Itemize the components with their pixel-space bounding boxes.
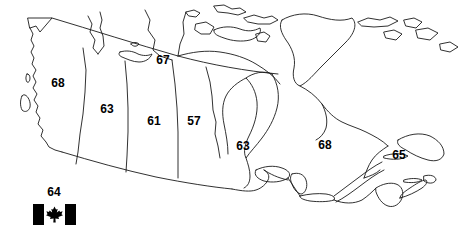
saskatchewan-manitoba-boundary: [172, 60, 178, 178]
yukon-nwt-boundary: [88, 16, 98, 54]
region-label-atlantic: 65: [392, 148, 406, 162]
alaska-panhandle-outline: [28, 18, 52, 32]
labrador-coast-outline: [300, 86, 388, 146]
usa-border-49th-parallel: [62, 152, 232, 189]
great-slave-lake-outline: [119, 51, 152, 62]
baffin-island-outline: [280, 14, 355, 86]
lake-huron-outline: [291, 173, 307, 194]
arctic-island-b: [214, 5, 246, 15]
ungava-bay-outline: [316, 104, 327, 140]
pacific-coast-outline: [30, 28, 62, 152]
coastal-island-outline: [26, 74, 30, 82]
region-label-british-columbia: 68: [51, 76, 65, 90]
banks-island-outline: [195, 22, 214, 34]
arctic-island-g: [440, 42, 458, 52]
bc-alberta-boundary: [76, 48, 86, 164]
somerset-island-outline: [256, 32, 270, 42]
map-outline-svg: [0, 0, 463, 233]
arctic-island-a: [186, 10, 200, 17]
region-label-saskatchewan: 61: [147, 114, 161, 128]
st-lawrence-south-shore: [336, 170, 384, 202]
region-label-quebec: 68: [318, 138, 332, 152]
ellesmere-fringe-outline: [416, 28, 438, 40]
region-label-manitoba: 57: [187, 114, 201, 128]
nunavut-manitoba-boundary: [178, 12, 186, 56]
southern-ontario-outline: [288, 178, 300, 196]
st-lawrence-outline: [334, 162, 382, 196]
legend-value-label: 64: [47, 185, 60, 199]
manitoba-ontario-boundary: [206, 67, 220, 158]
vancouver-island-outline: [21, 95, 31, 112]
usa-border-lakes: [264, 170, 288, 180]
lake-erie-ontario-outline: [300, 194, 335, 202]
canada-flag-icon: [33, 204, 76, 225]
flag-left-bar: [33, 204, 44, 225]
region-label-northwest-territories: 67: [156, 53, 170, 67]
canada-map-figure: 68 67 63 61 57 63 68 65 64: [0, 0, 463, 233]
region-label-alberta: 63: [100, 102, 114, 116]
james-bay-outline: [244, 158, 250, 188]
victoria-island-outline: [214, 27, 261, 41]
flag-right-bar: [65, 204, 76, 225]
region-label-ontario: 63: [236, 139, 250, 153]
new-brunswick-outline: [376, 183, 403, 206]
cape-breton-outline: [424, 175, 436, 183]
arctic-island-f: [384, 30, 402, 40]
arctic-island-c: [244, 15, 278, 24]
arctic-island-e: [404, 18, 422, 28]
alberta-saskatchewan-boundary: [125, 61, 128, 172]
arctic-island-d: [358, 17, 398, 27]
